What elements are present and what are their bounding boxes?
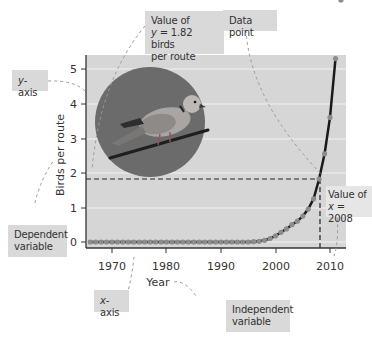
y-axis-title: Birds per route <box>54 114 67 196</box>
data-point <box>88 239 93 244</box>
callout-text: Independent <box>232 304 284 316</box>
data-point <box>164 239 169 244</box>
callout-text: variable <box>14 241 61 253</box>
callout-text: x = 2008 <box>328 201 370 225</box>
data-point <box>137 239 142 244</box>
callout-text: = 1.82 birds <box>151 27 192 50</box>
data-point <box>306 207 311 212</box>
y-tick-label: 1 <box>70 202 77 215</box>
callout-independent-variable: Independent variable <box>226 300 290 332</box>
data-point <box>338 0 343 3</box>
data-point <box>186 239 191 244</box>
x-tick-label: 2010 <box>316 260 344 273</box>
y-axis-ticks <box>81 69 86 242</box>
data-point <box>109 239 114 244</box>
data-point <box>257 239 262 244</box>
x-axis-title: Year <box>145 276 170 289</box>
data-point <box>322 151 327 156</box>
data-point <box>251 239 256 244</box>
data-point <box>278 230 283 235</box>
data-point <box>115 239 120 244</box>
data-point <box>153 239 158 244</box>
data-point <box>93 239 98 244</box>
data-point <box>148 239 153 244</box>
data-point <box>169 239 174 244</box>
data-point <box>180 239 185 244</box>
data-point <box>246 239 251 244</box>
data-point <box>202 239 207 244</box>
callout-text: Dependent <box>14 229 61 241</box>
data-point <box>327 115 332 120</box>
data-point <box>131 239 136 244</box>
x-tick-label: 1980 <box>152 260 180 273</box>
callout-value-of-x: Value of x = 2008 <box>326 186 372 217</box>
data-point <box>284 226 289 231</box>
data-point <box>317 176 322 181</box>
y-tick-label: 0 <box>70 236 77 249</box>
callout-data-point: Data point <box>223 10 277 31</box>
data-point <box>218 239 223 244</box>
data-point <box>229 239 234 244</box>
y-tick-label: 4 <box>70 98 77 111</box>
data-point <box>213 239 218 244</box>
data-point <box>268 236 273 241</box>
data-point <box>300 214 305 219</box>
data-point <box>208 239 213 244</box>
data-point <box>295 219 300 224</box>
callout-text: y = 1.82 birds <box>151 27 218 51</box>
data-point <box>191 239 196 244</box>
data-point <box>99 239 104 244</box>
x-tick-label: 1990 <box>207 260 235 273</box>
callout-text: per route <box>151 51 218 63</box>
callout-text: Value of <box>328 189 370 201</box>
data-point <box>240 239 245 244</box>
callout-y-axis: y-axis <box>12 70 48 91</box>
y-tick-label: 3 <box>70 133 77 146</box>
data-point <box>333 56 338 61</box>
callout-text: Value of <box>151 15 218 27</box>
data-point <box>120 239 125 244</box>
data-point <box>273 233 278 238</box>
y-tick-label: 5 <box>70 63 77 76</box>
callout-text: variable <box>232 316 284 328</box>
data-point <box>175 239 180 244</box>
data-point <box>197 239 202 244</box>
data-point <box>235 239 240 244</box>
data-point <box>262 238 267 243</box>
y-tick-label: 2 <box>70 167 77 180</box>
data-point <box>311 196 316 201</box>
x-axis-ticks <box>112 248 330 253</box>
x-tick-label: 2000 <box>262 260 290 273</box>
callout-x-axis: x-axis <box>94 290 129 312</box>
data-point <box>126 239 131 244</box>
callout-value-of-y: Value of y = 1.82 birds per route <box>145 11 224 54</box>
data-point <box>224 239 229 244</box>
data-point <box>159 239 164 244</box>
data-point <box>142 239 147 244</box>
x-tick-label: 1970 <box>98 260 126 273</box>
callout-text: Data point <box>229 15 254 38</box>
data-point <box>104 239 109 244</box>
callout-dependent-variable: Dependent variable <box>8 225 67 257</box>
data-point <box>289 222 294 227</box>
